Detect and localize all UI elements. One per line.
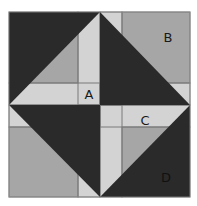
- label-c: C: [140, 113, 149, 128]
- label-d: D: [161, 170, 171, 185]
- label-a: A: [85, 87, 94, 102]
- quilt-block-diagram: A B C D: [0, 0, 197, 206]
- label-b: B: [164, 30, 173, 45]
